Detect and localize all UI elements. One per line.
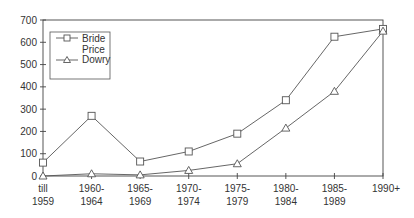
square-marker-icon [40,159,47,166]
x-tick-label: 1974 [178,196,201,207]
x-tick-label: till [38,183,47,194]
x-tick-label: 1969 [129,196,152,207]
y-tick-label: 700 [20,15,37,26]
square-marker-icon [331,33,338,40]
x-tick-label: 1975- [224,183,250,194]
square-marker-icon [282,97,289,104]
x-tick-label: 1985- [322,183,348,194]
triangle-marker-icon [88,170,96,177]
x-tick-label: 1984 [275,196,298,207]
square-marker-icon [137,158,144,165]
legend: Bride Price Dowry [50,32,110,79]
y-tick-label: 600 [20,37,37,48]
triangle-marker-icon [282,124,290,131]
x-tick-label: 1959 [32,196,55,207]
x-tick-label: 1960- [79,183,105,194]
y-tick-label: 200 [20,126,37,137]
x-tick-label: 1989 [323,196,346,207]
square-marker-icon [64,35,70,41]
y-axis: 0100200300400500600700 [20,15,46,182]
x-tick-label: 1990+ [372,183,400,194]
legend-label-bride: Bride [82,33,106,44]
y-tick-label: 500 [20,59,37,70]
y-tick-label: 0 [31,171,37,182]
y-tick-label: 300 [20,104,37,115]
line-chart: 0100200300400500600700 till19591960-1964… [0,0,414,218]
x-tick-label: 1979 [226,196,249,207]
x-tick-label: 1970- [176,183,202,194]
square-marker-icon [88,112,95,119]
square-marker-icon [234,130,241,137]
x-tick-label: 1965- [127,183,153,194]
x-tick-label: 1980- [273,183,299,194]
triangle-marker-icon [233,160,241,167]
square-marker-icon [185,148,192,155]
y-tick-label: 100 [20,148,37,159]
x-tick-label: 1964 [80,196,103,207]
y-tick-label: 400 [20,81,37,92]
legend-label-dowry: Dowry [82,54,110,65]
x-axis: till19591960-19641965-19691970-19741975-… [32,173,400,207]
